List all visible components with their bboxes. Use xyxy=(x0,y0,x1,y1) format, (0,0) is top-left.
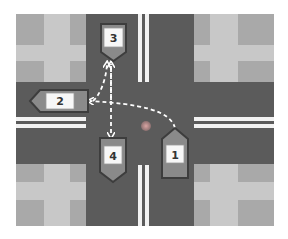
center-line-north-b xyxy=(145,14,149,82)
block-bottom-right xyxy=(194,164,274,226)
center-line-east-a xyxy=(194,117,274,121)
center-line-south-b xyxy=(145,165,149,226)
car-1-label: 1 xyxy=(171,149,179,162)
center-line-west-a xyxy=(16,117,86,121)
car-3[interactable]: 3 xyxy=(101,24,126,61)
car-1[interactable]: 1 xyxy=(162,128,188,178)
car-4-label: 4 xyxy=(109,150,117,163)
intersection-center-dot xyxy=(141,121,151,131)
center-line-east-b xyxy=(194,124,274,128)
block-bottom-left xyxy=(16,164,86,226)
center-line-south-a xyxy=(138,165,142,226)
car-2[interactable]: 2 xyxy=(30,90,88,112)
center-line-west-b xyxy=(16,124,86,128)
intersection-diagram: 3 2 4 1 xyxy=(0,0,288,239)
car-3-label: 3 xyxy=(110,32,118,45)
block-top-left xyxy=(16,14,86,82)
block-top-right xyxy=(194,14,274,82)
car-4[interactable]: 4 xyxy=(100,138,126,182)
car-2-label: 2 xyxy=(56,95,64,108)
center-line-north-a xyxy=(138,14,142,82)
